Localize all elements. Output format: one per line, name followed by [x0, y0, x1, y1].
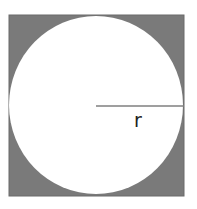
radius-label: r	[134, 109, 142, 131]
circle	[9, 16, 183, 194]
inscribed-circle-diagram: r	[0, 0, 197, 209]
